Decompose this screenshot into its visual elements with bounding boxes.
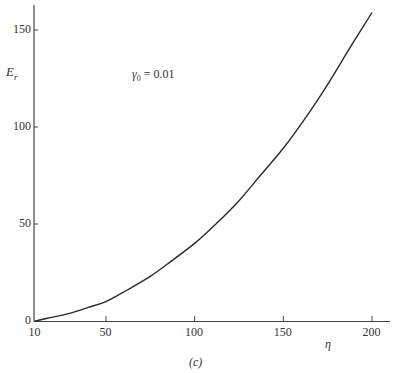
y-axis-label: Er [6, 64, 17, 82]
data-curve [35, 13, 372, 322]
x-tick-label: 150 [274, 325, 292, 340]
x-tick-label: 100 [185, 325, 203, 340]
x-tick-label: 10 [29, 325, 41, 340]
x-axis-label: η [325, 337, 331, 352]
y-tick-label: 100 [13, 119, 31, 134]
chart-area [0, 0, 395, 373]
y-tick-label: 150 [13, 22, 31, 37]
x-tick-label: 50 [100, 325, 112, 340]
gamma-annotation: γ0 = 0.01 [132, 67, 175, 83]
y-tick-label: 50 [19, 216, 31, 231]
axes [34, 5, 390, 322]
tick-marks [34, 30, 372, 321]
figure-caption: (c) [189, 355, 202, 370]
x-tick-label: 200 [362, 325, 380, 340]
